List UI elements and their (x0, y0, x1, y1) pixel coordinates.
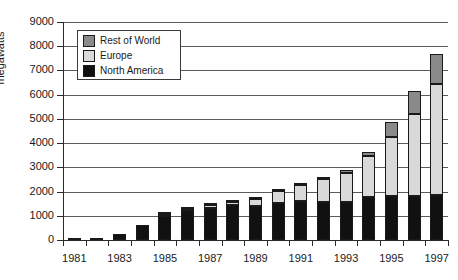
bar-segment-north-america (272, 203, 285, 240)
bar (204, 204, 217, 240)
bar-segment-rest-of-world (249, 197, 262, 199)
bar (408, 91, 421, 240)
legend-swatch-icon (83, 50, 95, 62)
x-axis-line (63, 240, 449, 241)
gridline (63, 95, 448, 96)
x-axis-label: 1989 (236, 252, 276, 264)
y-axis-label: 3000 (14, 161, 54, 172)
bar (249, 198, 262, 240)
bar-segment-europe (317, 179, 330, 202)
bar-segment-rest-of-world (181, 207, 194, 209)
y-axis-label: 2000 (14, 186, 54, 197)
x-axis-tick (425, 240, 426, 246)
x-axis-label: 1995 (371, 252, 411, 264)
bar (181, 208, 194, 240)
x-axis-tick (131, 240, 132, 246)
bar-segment-europe (272, 191, 285, 203)
stacked-bar-chart: megawatts 900080007000600050004000300020… (0, 0, 458, 280)
x-axis-tick (63, 240, 64, 246)
gridline (63, 119, 448, 120)
gridline (63, 22, 448, 23)
bar-segment-europe (204, 205, 217, 208)
bar (158, 214, 171, 240)
bar-segment-rest-of-world (317, 177, 330, 179)
legend-item: North America (83, 64, 176, 78)
bar-segment-europe (385, 137, 398, 197)
bar-segment-europe (294, 185, 307, 201)
x-axis-label: 1987 (190, 252, 230, 264)
y-axis-label: 5000 (14, 113, 54, 124)
bar-segment-north-america (158, 216, 171, 240)
x-axis-label: 1981 (54, 252, 94, 264)
bar (362, 152, 375, 240)
bar-segment-north-america (430, 195, 443, 240)
bar-segment-rest-of-world (226, 200, 239, 202)
bar-segment-north-america (362, 197, 375, 240)
bar (385, 122, 398, 240)
bar-segment-north-america (136, 225, 149, 240)
x-axis-label: 1983 (100, 252, 140, 264)
legend-item: Rest of World (83, 34, 176, 48)
bar (430, 54, 443, 240)
legend-item-label: North America (100, 66, 163, 76)
x-axis-label: 1993 (326, 252, 366, 264)
y-axis-label: 0 (14, 234, 54, 245)
x-axis-label: 1997 (417, 252, 457, 264)
legend-swatch-icon (83, 65, 95, 77)
bar-segment-north-america (226, 205, 239, 240)
bar (226, 202, 239, 241)
x-axis-label: 1985 (145, 252, 185, 264)
bar-segment-north-america (340, 202, 353, 240)
y-axis-label: 4000 (14, 137, 54, 148)
x-axis-tick (289, 240, 290, 246)
x-axis-tick (380, 240, 381, 246)
legend: Rest of WorldEuropeNorth America (77, 30, 181, 80)
x-axis-tick (154, 240, 155, 246)
bar-segment-rest-of-world (158, 212, 171, 214)
y-axis-label: 6000 (14, 89, 54, 100)
y-axis-label: 7000 (14, 64, 54, 75)
y-axis-line (63, 22, 64, 241)
legend-item: Europe (83, 49, 176, 63)
y-axis-label: 8000 (14, 40, 54, 51)
bar-segment-rest-of-world (294, 183, 307, 185)
y-axis-title: megawatts (0, 0, 6, 118)
legend-item-label: Europe (100, 51, 132, 61)
bar-segment-rest-of-world (204, 203, 217, 205)
bar-segment-north-america (317, 202, 330, 240)
x-axis-tick (403, 240, 404, 246)
x-axis-tick (108, 240, 109, 246)
bar-segment-rest-of-world (362, 152, 375, 156)
x-axis-tick (86, 240, 87, 246)
bar (340, 170, 353, 240)
x-axis-tick (267, 240, 268, 246)
bar-segment-europe (226, 202, 239, 205)
x-axis-tick (312, 240, 313, 246)
bar-segment-rest-of-world (408, 91, 421, 114)
bar (136, 225, 149, 240)
bar-segment-rest-of-world (430, 54, 443, 84)
bar-segment-rest-of-world (385, 122, 398, 137)
x-axis-label: 1991 (281, 252, 321, 264)
x-axis-tick (222, 240, 223, 246)
x-axis-tick (244, 240, 245, 246)
y-axis-label: 1000 (14, 210, 54, 221)
legend-swatch-icon (83, 35, 95, 47)
bar-segment-north-america (249, 206, 262, 240)
x-axis-tick (199, 240, 200, 246)
bar-segment-europe (430, 84, 443, 195)
bar (317, 177, 330, 240)
bar-segment-north-america (385, 196, 398, 240)
bar-segment-rest-of-world (340, 170, 353, 173)
y-axis-label: 9000 (14, 16, 54, 27)
bar-segment-europe (340, 173, 353, 202)
bar-segment-north-america (408, 196, 421, 240)
x-axis-tick (335, 240, 336, 246)
bar-segment-north-america (204, 208, 217, 240)
x-axis-tick (357, 240, 358, 246)
bar (272, 190, 285, 240)
x-axis-tick (176, 240, 177, 246)
x-axis-tick (448, 240, 449, 246)
bar-segment-europe (362, 156, 375, 198)
bar-segment-europe (408, 114, 421, 196)
